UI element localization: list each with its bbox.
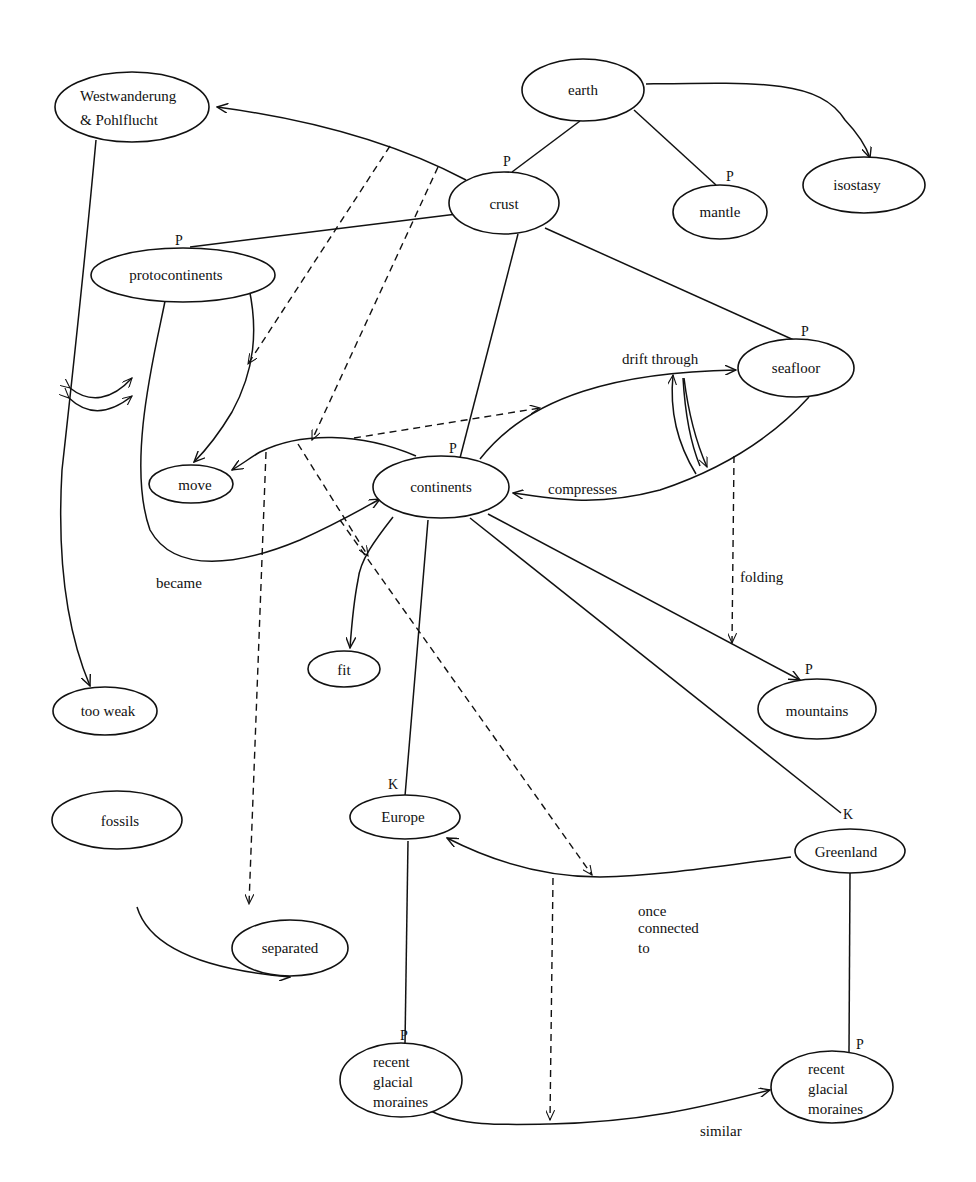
continents-marker: P: [449, 441, 457, 456]
node-europe[interactable]: Europe: [350, 795, 460, 839]
edge-cross-2: [69, 396, 132, 411]
node-label: fossils: [101, 813, 140, 829]
node-mantle[interactable]: mantle: [673, 185, 767, 239]
edge-earth-crust: [512, 121, 580, 172]
edge-crust-westwanderung: [217, 107, 466, 180]
node-moraines-right[interactable]: recent glacial moraines: [771, 1051, 893, 1123]
edge-label-connected: connected: [638, 920, 699, 936]
edge-label-similar: similar: [700, 1123, 742, 1139]
edge-label-became: became: [156, 575, 202, 591]
node-label: crust: [489, 196, 519, 212]
node-isostasy[interactable]: isostasy: [803, 157, 925, 213]
edge-earth-isostasy: [646, 83, 870, 158]
node-label: isostasy: [833, 177, 881, 193]
dashed-move-to-fit: [298, 444, 368, 556]
greenland-marker: K: [843, 807, 853, 822]
node-label: & Pohlflucht: [80, 112, 159, 128]
edge-greenland-moraines: [849, 873, 850, 1052]
node-label: recent: [808, 1061, 845, 1077]
dashed-compresses-to-mountains: [732, 456, 734, 643]
edge-continents-mountains: [488, 514, 800, 680]
node-greenland[interactable]: Greenland: [795, 829, 905, 873]
node-continents[interactable]: continents: [373, 456, 509, 518]
node-protocontinents[interactable]: protocontinents: [91, 248, 275, 302]
edge-crust-seafloor: [545, 228, 796, 341]
node-label: recent: [373, 1054, 410, 1070]
crust-marker: P: [503, 154, 511, 169]
node-fossils[interactable]: fossils: [52, 791, 182, 849]
node-label: Greenland: [815, 844, 878, 860]
node-crust[interactable]: crust: [449, 172, 559, 234]
node-label: seafloor: [772, 360, 820, 376]
mountains-marker: P: [805, 662, 813, 677]
node-label: mantle: [700, 204, 741, 220]
edge-protocontinents-continents: [141, 296, 380, 561]
node-label: continents: [410, 479, 472, 495]
node-move[interactable]: move: [149, 465, 233, 503]
node-label: glacial: [373, 1074, 413, 1090]
dashed-connected-to-similar: [550, 878, 553, 1120]
edge-earth-mantle: [634, 110, 716, 185]
edge-westwanderung-tooweak: [61, 140, 96, 686]
edge-label-once: once: [638, 903, 667, 919]
concept-map: Westwanderung & Pohlflucht earth crust P…: [0, 0, 976, 1182]
node-earth[interactable]: earth: [522, 59, 644, 121]
edge-crust-protocontinents: [190, 214, 457, 247]
moraines-left-marker: P: [400, 1028, 408, 1043]
node-label: moraines: [373, 1094, 428, 1110]
node-westwanderung[interactable]: Westwanderung & Pohlflucht: [55, 72, 209, 142]
edge-protocontinents-move: [194, 288, 254, 462]
node-label: moraines: [808, 1101, 863, 1117]
node-label: glacial: [808, 1081, 848, 1097]
edge-continents-move: [232, 437, 416, 470]
edge-continents-europe: [405, 520, 428, 796]
node-label: Europe: [381, 809, 425, 825]
edge-cross-1: [70, 378, 132, 398]
node-label: protocontinents: [129, 267, 222, 283]
node-label: separated: [262, 940, 319, 956]
edge-continents-seafloor: [480, 370, 736, 459]
node-seafloor[interactable]: seafloor: [738, 339, 854, 397]
dashed-edges: [248, 146, 734, 1120]
protocontinents-marker: P: [175, 233, 183, 248]
edge-greenland-europe: [447, 838, 791, 877]
dashed-move-to-drift: [354, 408, 540, 438]
edge-label-folding: folding: [740, 569, 784, 585]
edge-europe-moraines: [405, 841, 408, 1044]
edge-crust-continents: [460, 234, 518, 458]
node-label: fit: [337, 662, 351, 678]
node-too-weak[interactable]: too weak: [53, 687, 157, 735]
edge-label-to: to: [638, 940, 650, 956]
europe-marker: K: [388, 777, 398, 792]
edge-label-compresses: compresses: [548, 481, 617, 497]
dashed-move-to-separated: [249, 452, 266, 904]
seafloor-marker: P: [801, 324, 809, 339]
node-mountains[interactable]: mountains: [758, 679, 876, 739]
node-label: earth: [568, 82, 598, 98]
node-moraines-left[interactable]: recent glacial moraines: [340, 1043, 462, 1117]
mantle-marker: P: [726, 169, 734, 184]
node-label: move: [178, 477, 212, 493]
dashed-crust-westwanderung-to-continents-move: [312, 167, 438, 440]
node-separated[interactable]: separated: [232, 920, 348, 976]
node-label: too weak: [81, 703, 136, 719]
dashed-crust-westwanderung-to-move: [248, 146, 390, 364]
edge-moraines-similar: [431, 1090, 770, 1125]
node-label: mountains: [786, 703, 849, 719]
node-fit[interactable]: fit: [308, 651, 380, 687]
edge-continents-greenland: [470, 518, 841, 813]
moraines-right-marker: P: [856, 1037, 864, 1052]
edge-label-drift-through: drift through: [622, 351, 699, 367]
node-label: Westwanderung: [80, 88, 177, 104]
